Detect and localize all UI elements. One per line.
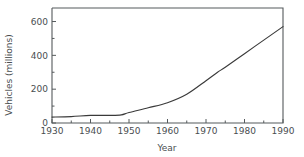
vehicles-line-chart: 1930194019501960197019801990 0200400600 … [0, 0, 304, 157]
plot-frame [52, 8, 283, 123]
y-axis-title: Vehicles (millions) [4, 34, 14, 115]
y-axis-ticks [52, 22, 56, 123]
plot-border [52, 8, 283, 123]
y-tick-label: 200 [31, 84, 48, 94]
x-axis-ticks [52, 119, 283, 123]
y-axis-tick-labels: 0200400600 [31, 17, 48, 128]
x-axis-title: Year [156, 143, 176, 153]
x-tick-label: 1980 [233, 126, 256, 136]
y-tick-label: 0 [42, 118, 48, 128]
chart-figure: 1930194019501960197019801990 0200400600 … [0, 0, 304, 157]
y-tick-label: 600 [31, 17, 48, 27]
y-tick-label: 400 [31, 51, 48, 61]
data-series-group [52, 27, 283, 117]
x-tick-label: 1960 [156, 126, 179, 136]
x-tick-label: 1990 [272, 126, 295, 136]
x-tick-label: 1940 [79, 126, 102, 136]
x-tick-label: 1950 [118, 126, 141, 136]
x-axis-tick-labels: 1930194019501960197019801990 [41, 126, 295, 136]
x-tick-label: 1970 [195, 126, 218, 136]
data-line-vehicles [52, 27, 283, 117]
